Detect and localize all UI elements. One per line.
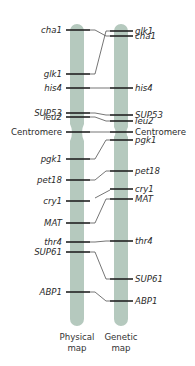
- connector-abp1: [90, 292, 110, 301]
- physical-label-mat: MAT: [44, 218, 63, 228]
- genetic-map-labels: glk1cha1his4SUP53leu2Centromerepgk1pet18…: [134, 26, 186, 306]
- genetic-chromosome: [114, 24, 128, 326]
- physical-label-his4: his4: [44, 83, 62, 93]
- genetic-label-his4: his4: [135, 83, 153, 93]
- connector-thr4: [90, 241, 110, 242]
- genetic-label-sup61: SUP61: [135, 274, 163, 284]
- physical-label-cha1: cha1: [41, 25, 62, 35]
- connector-leu2: [90, 117, 110, 121]
- physical-label-abp1: ABP1: [39, 287, 62, 297]
- physical-map-labels: cha1glk1his4SUP53leu2Centromerepgk1pet18…: [11, 25, 63, 297]
- connector-cry1: [95, 190, 110, 198]
- connector-pgk1: [90, 140, 110, 159]
- physical-label-sup61: SUP61: [34, 247, 62, 257]
- genetic-map-caption-line1: Genetic: [104, 332, 137, 342]
- physical-label-centromere: Centromere: [11, 127, 62, 137]
- marker-connectors: [90, 30, 110, 301]
- connector-pet18: [90, 171, 110, 180]
- genetic-label-pet18: pet18: [134, 166, 161, 176]
- genetic-label-cha1: cha1: [135, 31, 156, 41]
- physical-map-caption: Physical map: [60, 332, 95, 353]
- genetic-label-pgk1: pgk1: [134, 135, 156, 145]
- chromosome-map-diagram: cha1glk1his4SUP53leu2Centromerepgk1pet18…: [0, 0, 195, 366]
- connector-glk1: [90, 31, 110, 74]
- physical-label-glk1: glk1: [44, 69, 62, 79]
- genetic-map-caption: Genetic map: [104, 332, 137, 353]
- connector-sup61: [90, 252, 110, 279]
- connector-sup53: [90, 113, 110, 115]
- physical-label-pet18: pet18: [36, 175, 63, 185]
- physical-label-cry1: cry1: [43, 196, 62, 206]
- genetic-label-mat: MAT: [135, 194, 154, 204]
- physical-map-caption-line2: map: [67, 343, 86, 353]
- genetic-label-thr4: thr4: [135, 236, 153, 246]
- genetic-label-cry1: cry1: [135, 184, 154, 194]
- connector-mat: [90, 199, 110, 223]
- physical-label-pgk1: pgk1: [40, 154, 62, 164]
- physical-label-leu2: leu2: [43, 112, 62, 122]
- physical-map-caption-line1: Physical: [60, 332, 95, 342]
- genetic-label-abp1: ABP1: [134, 296, 157, 306]
- genetic-map-caption-line2: map: [111, 343, 130, 353]
- physical-chromosome: [70, 24, 84, 326]
- genetic-label-leu2: leu2: [135, 116, 154, 126]
- physical-label-thr4: thr4: [44, 237, 62, 247]
